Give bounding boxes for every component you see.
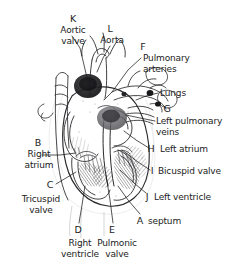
label-line: Left pulmonary	[156, 116, 244, 127]
label-text-left-pulmonary-veins: Left pulmonaryveins	[156, 116, 244, 137]
label-layer: KAorticvalveLAortaFPulmonaryarteriesLung…	[0, 0, 245, 271]
label-key-tricuspid-valve: C	[44, 180, 56, 191]
label-text-right-atrium: Rightatrium	[12, 149, 66, 170]
label-line: Lungs	[160, 88, 200, 99]
label-line: septum	[148, 216, 192, 227]
label-key-aortic-valve: K	[67, 14, 79, 25]
label-line: Left atrium	[160, 144, 220, 155]
label-text-pulmonary-arteries: Pulmonaryarteries	[143, 53, 203, 74]
label-key-pulmonic-valve: E	[106, 225, 118, 236]
label-text-septum: septum	[148, 216, 192, 227]
label-line: Right	[12, 149, 66, 160]
label-key-left-ventricle: J	[141, 192, 153, 203]
label-line: Left ventricle	[154, 192, 226, 203]
label-text-bicuspid-valve: Bicuspid valve	[158, 166, 236, 177]
label-text-right-ventricle: Rightventricle	[54, 238, 106, 259]
label-line: valve	[12, 205, 70, 216]
label-line: ventricle	[54, 249, 106, 260]
label-key-left-pulmonary-veins: G	[161, 104, 173, 115]
label-text-left-atrium: Left atrium	[160, 144, 220, 155]
label-text-lungs: Lungs	[160, 88, 200, 99]
label-key-left-atrium: H	[145, 144, 157, 155]
label-text-left-ventricle: Left ventricle	[154, 192, 226, 203]
label-line: Pulmonary	[143, 53, 203, 64]
heart-anatomy-figure: KAorticvalveLAortaFPulmonaryarteriesLung…	[0, 0, 245, 271]
label-text-tricuspid-valve: Tricuspidvalve	[12, 194, 70, 215]
label-key-bicuspid-valve: I	[146, 166, 158, 177]
label-key-septum: A	[134, 216, 146, 227]
label-key-pulmonary-arteries: F	[137, 42, 149, 53]
label-line: Right	[54, 238, 106, 249]
label-line: Aorta	[90, 35, 134, 46]
label-line: atrium	[12, 160, 66, 171]
label-text-aorta: Aorta	[90, 35, 134, 46]
label-key-right-atrium: B	[32, 138, 44, 149]
label-key-aorta: L	[104, 24, 116, 35]
label-line: arteries	[143, 64, 203, 75]
label-line: Aortic	[50, 25, 96, 36]
label-line: veins	[156, 127, 244, 138]
label-key-right-ventricle: D	[72, 225, 84, 236]
label-line: Tricuspid	[12, 194, 70, 205]
label-line: Bicuspid valve	[158, 166, 236, 177]
